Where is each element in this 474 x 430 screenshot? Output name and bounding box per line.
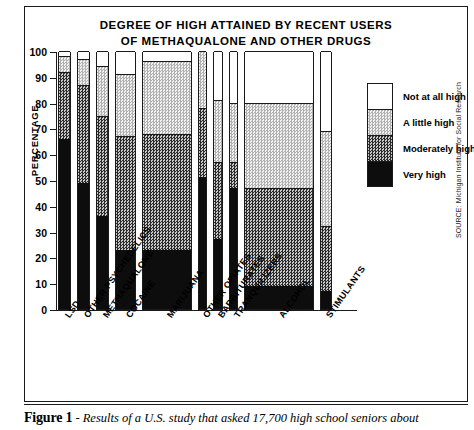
legend-label: A little high bbox=[403, 117, 454, 128]
chart-title-line-2: OF METHAQUALONE AND OTHER DRUGS bbox=[25, 33, 467, 49]
bar-segment-very-high bbox=[59, 139, 70, 309]
y-axis-title: PERCENTAGE bbox=[29, 105, 40, 176]
y-axis-tick bbox=[50, 284, 57, 285]
bar-segment-a-little-high bbox=[97, 66, 108, 115]
y-axis-tick bbox=[50, 181, 57, 182]
bar-segment-moderately-high bbox=[59, 72, 70, 139]
y-axis-tick bbox=[50, 310, 57, 311]
legend-swatch-very-high bbox=[367, 161, 393, 187]
legend-swatch-not-at-all-high bbox=[367, 83, 393, 109]
bar-segment-a-little-high bbox=[116, 74, 135, 136]
y-axis-tick bbox=[50, 207, 57, 208]
bar-segment-a-little-high bbox=[143, 61, 191, 133]
chart-title-block: DEGREE OF HIGH ATTAINED BY RECENT USERS … bbox=[25, 17, 467, 49]
chart-title-line-1: DEGREE OF HIGH ATTAINED BY RECENT USERS bbox=[25, 17, 467, 33]
bar-lsd bbox=[58, 52, 71, 310]
bar-barbiturates bbox=[213, 52, 223, 310]
bar-segment-moderately-high bbox=[116, 136, 135, 250]
caption-body: Results of a U.S. study that asked 17,70… bbox=[83, 411, 419, 425]
y-axis-tick-label: 60 bbox=[23, 150, 47, 160]
bar-segment-not-at-all-high bbox=[245, 51, 313, 103]
y-axis-tick bbox=[50, 155, 57, 156]
legend-label: Very high bbox=[403, 169, 446, 180]
y-axis-tick-label: 0 bbox=[23, 305, 47, 315]
bar-segment-moderately-high bbox=[230, 162, 237, 188]
y-axis-tick bbox=[50, 129, 57, 130]
bar-segment-a-little-high bbox=[321, 131, 331, 226]
y-axis-tick-label: 20 bbox=[23, 253, 47, 263]
legend-swatch-a-little-high bbox=[367, 109, 393, 135]
legend-swatch-moderately-high bbox=[367, 135, 393, 161]
bar-segment-moderately-high bbox=[97, 116, 108, 217]
bar-segment-a-little-high bbox=[199, 51, 206, 108]
figure-caption: Figure 1 - Results of a U.S. study that … bbox=[24, 404, 468, 430]
page-gutter bbox=[0, 0, 7, 430]
bar-segment-not-at-all-high bbox=[97, 51, 108, 66]
legend-label: Moderately high bbox=[403, 143, 474, 154]
bar-segment-not-at-all-high bbox=[230, 51, 237, 103]
y-axis-tick-label: 80 bbox=[23, 99, 47, 109]
y-axis-tick bbox=[50, 52, 57, 53]
y-axis-tick bbox=[50, 258, 57, 259]
bar-segment-not-at-all-high bbox=[78, 51, 89, 59]
y-axis-tick bbox=[50, 78, 57, 79]
y-axis-tick-label: 40 bbox=[23, 202, 47, 212]
bar-segment-not-at-all-high bbox=[321, 51, 331, 131]
chart-frame: DEGREE OF HIGH ATTAINED BY RECENT USERS … bbox=[24, 6, 468, 402]
y-axis-tick-label: 90 bbox=[23, 73, 47, 83]
bar-segment-a-little-high bbox=[214, 100, 222, 162]
y-axis-tick-label: 50 bbox=[23, 176, 47, 186]
bar-segment-not-at-all-high bbox=[214, 51, 222, 100]
bar-segment-a-little-high bbox=[230, 103, 237, 162]
y-axis-tick-label: 100 bbox=[23, 47, 47, 57]
bar-other-psychedelics bbox=[77, 52, 90, 310]
caption-separator: - bbox=[75, 411, 82, 425]
bar-segment-a-little-high bbox=[78, 59, 89, 85]
bar-marijuana bbox=[142, 52, 192, 310]
bar-segment-not-at-all-high bbox=[116, 51, 135, 74]
y-axis-tick-label: 30 bbox=[23, 228, 47, 238]
y-axis-tick bbox=[50, 233, 57, 234]
bar-segment-a-little-high bbox=[245, 103, 313, 188]
bar-methaqualone bbox=[96, 52, 109, 310]
bar-segment-very-high bbox=[78, 183, 89, 309]
y-axis-tick-label: 70 bbox=[23, 124, 47, 134]
y-axis-tick bbox=[50, 104, 57, 105]
bar-segment-moderately-high bbox=[321, 226, 331, 291]
bar-segment-moderately-high bbox=[78, 85, 89, 183]
caption-figure-number: Figure 1 bbox=[24, 410, 72, 425]
y-axis-tick-label: 10 bbox=[23, 279, 47, 289]
bar-segment-not-at-all-high bbox=[59, 51, 70, 56]
bar-segment-very-high bbox=[199, 177, 206, 309]
bar-segment-not-at-all-high bbox=[143, 51, 191, 61]
source-credit: SOURCE: Michigan Institute for Social Re… bbox=[455, 82, 462, 238]
bar-stimulants bbox=[320, 52, 332, 310]
bar-segment-moderately-high bbox=[199, 108, 206, 178]
bar-segment-a-little-high bbox=[59, 56, 70, 71]
bar-segment-moderately-high bbox=[214, 162, 222, 239]
caption-text: Figure 1 - Results of a U.S. study that … bbox=[24, 410, 468, 426]
figure-root: DEGREE OF HIGH ATTAINED BY RECENT USERS … bbox=[0, 0, 474, 430]
